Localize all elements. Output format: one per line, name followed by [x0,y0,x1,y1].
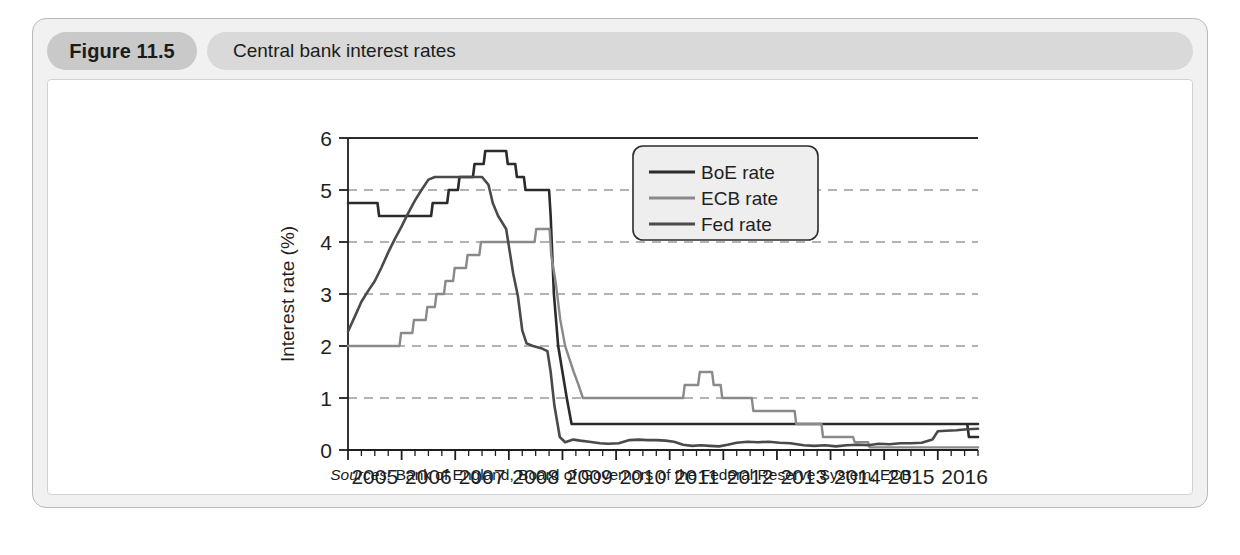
figure-number-badge: Figure 11.5 [47,32,197,70]
figure-card: Figure 11.5 Central bank interest rates … [32,18,1208,508]
source-text: Bank of England, Board of Governors of t… [396,466,912,483]
svg-text:ECB rate: ECB rate [701,188,778,209]
svg-text:4: 4 [320,231,332,254]
figure-number-label: Figure 11.5 [69,40,175,63]
axis-titles: Interest rate (%) [277,226,298,362]
figure-header: Figure 11.5 Central bank interest rates [47,32,1193,70]
svg-text:5: 5 [320,179,332,202]
source-note: Sources: Bank of England, Board of Gover… [48,466,1194,484]
chart-legend: BoE rateECB rateFed rate [633,146,818,240]
svg-text:1: 1 [320,387,332,410]
figure-title-label: Central bank interest rates [233,40,456,62]
svg-text:6: 6 [320,127,332,150]
svg-text:BoE rate: BoE rate [701,162,775,183]
interest-rate-line-chart: 0123456200520062007200820092010201120122… [48,80,1194,496]
svg-text:0: 0 [320,439,332,462]
svg-text:Fed rate: Fed rate [701,214,772,235]
svg-text:3: 3 [320,283,332,306]
svg-text:Interest rate (%): Interest rate (%) [277,226,298,362]
figure-body: 0123456200520062007200820092010201120122… [47,79,1193,495]
chart-area: 0123456200520062007200820092010201120122… [48,80,1194,496]
figure-title-bar: Central bank interest rates [207,32,1193,70]
svg-text:2: 2 [320,335,332,358]
source-label: Sources: [330,466,391,483]
